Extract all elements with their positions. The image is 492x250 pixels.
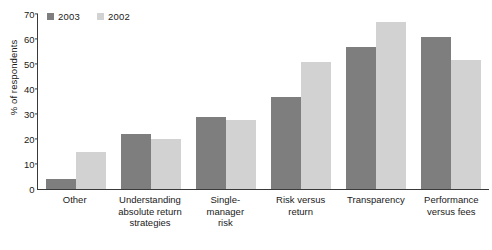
y-tick-label: 40 — [24, 83, 35, 94]
x-axis-labels: Other Understandingabsolute returnstrate… — [37, 194, 489, 229]
legend-label: 2003 — [58, 11, 80, 22]
bar-2003 — [196, 117, 226, 189]
legend-item-2003: 2003 — [47, 11, 80, 22]
bar-2003 — [46, 179, 76, 189]
legend-swatch-icon — [47, 13, 54, 20]
x-axis-label: Understandingabsolute returnstrategies — [112, 194, 187, 229]
x-axis-label: Risk versusreturn — [263, 194, 338, 229]
y-tick-label: 70 — [24, 9, 35, 20]
x-axis-label: Performanceversus fees — [414, 194, 489, 229]
y-tick-label: 10 — [24, 158, 35, 169]
legend-label: 2002 — [108, 11, 130, 22]
bar-2003 — [346, 47, 376, 190]
y-axis-title: % of respondents — [8, 18, 19, 138]
legend: 2003 2002 — [47, 11, 130, 22]
y-tick-label: 50 — [24, 58, 35, 69]
bar-2002 — [226, 120, 256, 189]
bar-chart: % of respondents 70 60 50 40 30 20 10 0 — [0, 0, 492, 250]
y-tick-label: 20 — [24, 134, 35, 145]
plot-area: 70 60 50 40 30 20 10 0 — [37, 14, 489, 190]
bar-2003 — [271, 97, 301, 190]
legend-item-2002: 2002 — [97, 11, 130, 22]
bar-group — [339, 14, 414, 189]
bar-group — [188, 14, 263, 189]
y-tick-label: 60 — [24, 34, 35, 45]
bar-2002 — [151, 139, 181, 189]
bar-2002 — [76, 152, 106, 190]
bar-2002 — [301, 62, 331, 189]
legend-swatch-icon — [97, 13, 104, 20]
bar-2003 — [421, 37, 451, 190]
x-axis-label: Transparency — [338, 194, 413, 229]
x-axis-label: Single-managerrisk — [188, 194, 263, 229]
x-axis-label: Other — [37, 194, 112, 229]
bar-group — [264, 14, 339, 189]
bar-2002 — [376, 22, 406, 190]
bar-groups — [38, 14, 489, 189]
bar-group — [113, 14, 188, 189]
bar-group — [414, 14, 489, 189]
bar-2003 — [121, 134, 151, 189]
bar-2002 — [451, 60, 481, 189]
y-tick-label: 30 — [24, 109, 35, 120]
y-tick-label: 0 — [29, 184, 34, 195]
bar-group — [38, 14, 113, 189]
